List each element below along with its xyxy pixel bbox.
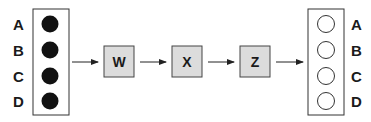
output-label-a: A bbox=[351, 16, 362, 33]
input-label-b: B bbox=[13, 42, 24, 59]
stage-w: W bbox=[104, 46, 134, 77]
output-labels: A B C D bbox=[351, 16, 362, 110]
filled-circle-d bbox=[42, 93, 59, 110]
input-label-d: D bbox=[13, 93, 24, 110]
empty-circle-a bbox=[318, 16, 335, 33]
empty-circle-c bbox=[318, 68, 335, 85]
input-box bbox=[33, 9, 69, 115]
input-label-a: A bbox=[13, 16, 24, 33]
empty-circle-b bbox=[318, 42, 335, 59]
stage-z-label: Z bbox=[251, 54, 260, 70]
stage-z: Z bbox=[240, 46, 270, 77]
filled-circle-b bbox=[42, 42, 59, 59]
output-box bbox=[308, 9, 344, 115]
output-label-b: B bbox=[351, 42, 362, 59]
input-label-c: C bbox=[13, 68, 24, 85]
flow-diagram: A B C D W X Z A B C D bbox=[0, 0, 371, 122]
output-label-c: C bbox=[351, 68, 362, 85]
output-label-d: D bbox=[351, 93, 362, 110]
empty-circle-d bbox=[318, 93, 335, 110]
filled-circle-c bbox=[42, 68, 59, 85]
input-labels: A B C D bbox=[13, 16, 24, 110]
stage-w-label: W bbox=[112, 54, 126, 70]
stage-x: X bbox=[172, 46, 202, 77]
filled-circle-a bbox=[42, 16, 59, 33]
stage-x-label: X bbox=[182, 54, 192, 70]
